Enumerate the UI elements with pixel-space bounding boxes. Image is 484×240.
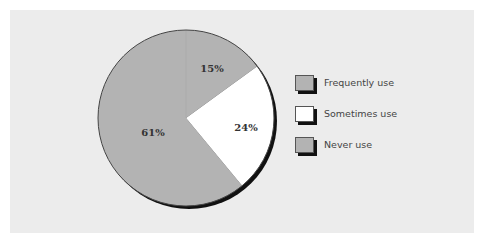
slice-label-frequently: 15% xyxy=(200,63,224,74)
slice-label-sometimes: 24% xyxy=(234,122,258,133)
legend-label: Sometimes use xyxy=(324,108,397,119)
legend-item-never: Never use xyxy=(295,137,397,168)
legend-swatch-frequently xyxy=(295,75,319,95)
legend-item-sometimes: Sometimes use xyxy=(295,106,397,137)
legend-swatch-never xyxy=(295,137,319,157)
slice-label-never: 61% xyxy=(141,127,165,138)
legend-label: Frequently use xyxy=(324,77,394,88)
legend-item-frequently: Frequently use xyxy=(295,75,397,106)
pie-chart: 15% 24% 61% xyxy=(0,0,484,240)
legend-label: Never use xyxy=(324,139,372,150)
legend-swatch-sometimes xyxy=(295,106,319,126)
chart-legend: Frequently use Sometimes use Never use xyxy=(295,75,397,168)
